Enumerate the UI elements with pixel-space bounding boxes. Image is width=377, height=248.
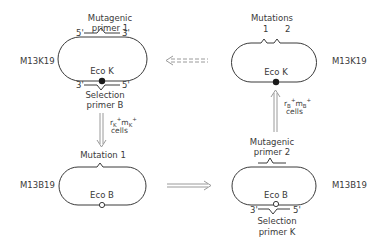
eco-b-label-bottom-right: Eco B [264,191,288,200]
eco-k-label-top-right: Eco K [264,68,288,77]
selection-primer-k [258,209,290,214]
eco-k-label-top-left: Eco K [90,67,114,76]
mutagenic-primer-2-label-line2: primer 2 [254,148,290,157]
primer-k-5prime-end: 5' [293,206,301,215]
eco-k-site-top-left [99,78,105,84]
primer-1-5prime-end: 5' [76,29,84,38]
plasmid-label-top-left: M13K19 [20,57,55,66]
primer-b-3prime-end: 3' [76,81,84,90]
primer-k-3prime-end: 3' [250,206,258,215]
plasmid-label-bottom-right: M13B19 [332,181,367,190]
mutagenic-primer-2-label-line1: Mutagenic [250,138,294,147]
mutation-1-marker: 1 [263,25,268,34]
mutation-2-marker: 2 [285,25,290,34]
mutation-1-label: Mutation 1 [80,151,126,160]
selection-primer-b-label-line2: primer B [87,101,124,110]
arrow-down-left [97,113,106,147]
plasmid-label-bottom-left: M13B19 [20,181,55,190]
selection-primer-k-label-line1: Selection [257,217,296,226]
diagram-graphics [0,0,377,248]
primer-1-3prime-end: 3' [122,29,130,38]
eco-k-site-top-right [273,79,279,85]
selection-primer-k-label-line2: primer K [259,228,296,237]
mutagenesis-diagram: Mutagenic primer 1 5' 3' M13K19 Eco K 3'… [0,0,377,248]
mutagenic-primer-2 [258,158,286,163]
primer-b-5prime-end: 5' [122,81,130,90]
arrow-left-top-dashed [166,56,208,65]
mutagenic-primer-1-label-line1: Mutagenic [88,14,132,23]
eco-b-label-bottom-left: Eco B [90,191,114,200]
selection-primer-b-label-line1: Selection [85,91,124,100]
arrow-right-bottom [167,181,211,190]
mutations-label: Mutations [251,14,293,23]
arrow-up-cells-label: cells [286,107,303,116]
eco-b-site-bottom-right [273,201,278,206]
plasmid-label-top-right: M13K19 [332,57,367,66]
arrow-up-right [271,90,280,132]
eco-b-site-bottom-left [99,202,104,207]
arrow-down-cells-label: cells [111,126,128,135]
